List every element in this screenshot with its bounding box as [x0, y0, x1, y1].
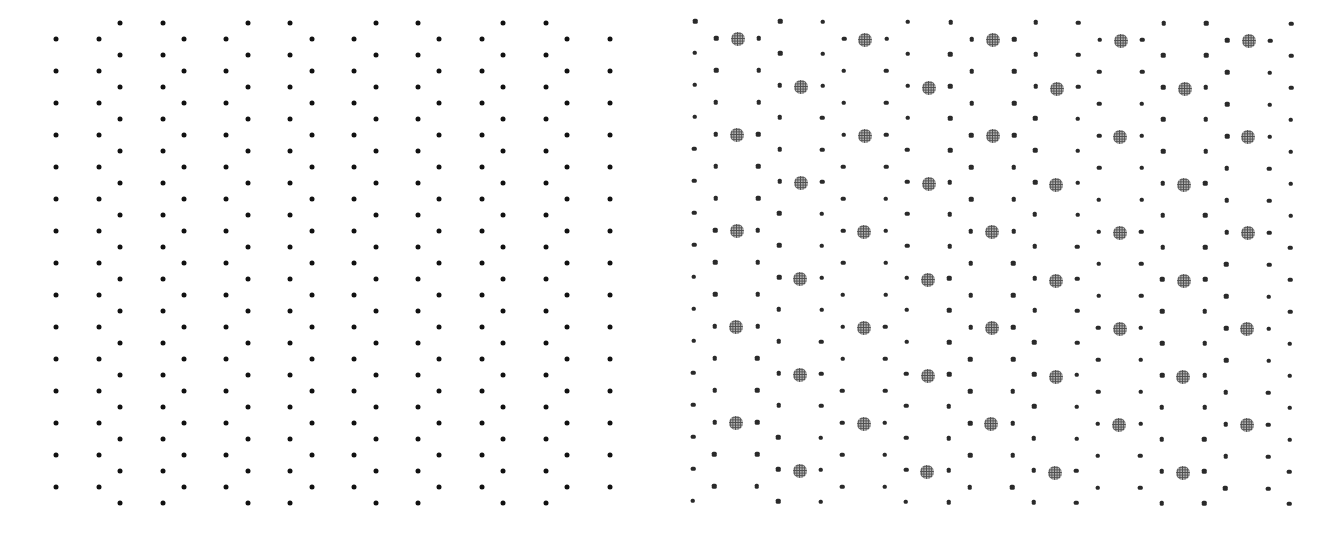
lattice-dot — [1139, 294, 1144, 299]
lattice-dot — [437, 421, 442, 426]
lattice-dot — [245, 341, 250, 346]
lattice-dot — [1288, 181, 1293, 186]
lattice-dot — [1096, 454, 1101, 459]
lattice-dot — [1289, 149, 1294, 154]
lattice-dot — [501, 181, 506, 186]
lattice-dot — [1011, 229, 1016, 234]
lattice-dot — [437, 69, 442, 74]
gray-target-dot — [1178, 82, 1192, 96]
lattice-dot — [224, 229, 229, 234]
lattice-dot — [1160, 341, 1165, 346]
lattice-dot — [373, 149, 378, 154]
gray-target-dot — [857, 321, 871, 335]
lattice-dot — [54, 261, 59, 266]
lattice-dot — [1267, 326, 1272, 331]
lattice-dot — [1138, 454, 1143, 459]
lattice-dot — [1139, 262, 1144, 267]
lattice-dot — [160, 149, 165, 154]
lattice-dot — [947, 404, 952, 409]
lattice-dot — [245, 469, 250, 474]
lattice-dot — [1225, 70, 1230, 75]
lattice-dot — [1203, 245, 1208, 250]
lattice-dot — [480, 357, 485, 362]
lattice-dot — [352, 133, 357, 138]
lattice-dot — [309, 261, 314, 266]
lattice-dot — [352, 261, 357, 266]
lattice-dot — [117, 437, 122, 442]
lattice-dot — [437, 453, 442, 458]
lattice-dot — [352, 325, 357, 330]
lattice-dot — [1160, 405, 1165, 410]
lattice-dot — [373, 245, 378, 250]
lattice-dot — [224, 133, 229, 138]
lattice-dot — [1161, 85, 1166, 90]
lattice-dot — [543, 373, 548, 378]
lattice-dot — [1159, 501, 1164, 506]
lattice-dot — [1204, 85, 1209, 90]
lattice-dot — [352, 357, 357, 362]
gray-target-dot — [985, 321, 999, 335]
gray-target-dot — [1242, 34, 1256, 48]
lattice-dot — [224, 165, 229, 170]
lattice-dot — [543, 85, 548, 90]
lattice-dot — [117, 21, 122, 26]
gray-target-dot — [793, 368, 807, 382]
lattice-dot — [1074, 468, 1079, 473]
lattice-dot — [1289, 53, 1294, 58]
lattice-dot — [969, 69, 974, 74]
right-dot-lattice-panel — [660, 0, 1338, 533]
gray-target-dot — [986, 33, 1000, 47]
lattice-dot — [501, 85, 506, 90]
lattice-dot — [884, 101, 889, 106]
lattice-dot — [607, 485, 612, 490]
lattice-dot — [1012, 133, 1017, 138]
lattice-dot — [501, 245, 506, 250]
lattice-dot — [288, 469, 293, 474]
lattice-dot — [819, 403, 824, 408]
gray-target-dot — [1050, 82, 1064, 96]
lattice-dot — [181, 485, 186, 490]
lattice-dot — [54, 421, 59, 426]
lattice-dot — [756, 196, 761, 201]
lattice-dot — [607, 421, 612, 426]
lattice-dot — [1032, 276, 1037, 281]
lattice-dot — [948, 20, 953, 25]
lattice-dot — [224, 421, 229, 426]
lattice-dot — [96, 165, 101, 170]
lattice-dot — [543, 245, 548, 250]
lattice-dot — [1288, 373, 1293, 378]
lattice-dot — [373, 213, 378, 218]
lattice-dot — [1076, 148, 1081, 153]
lattice-dot — [1097, 102, 1102, 107]
lattice-dot — [713, 164, 718, 169]
lattice-dot — [777, 211, 782, 216]
lattice-dot — [309, 325, 314, 330]
lattice-dot — [1032, 308, 1037, 313]
lattice-dot — [755, 324, 760, 329]
lattice-dot — [352, 421, 357, 426]
lattice-dot — [96, 485, 101, 490]
lattice-dot — [1075, 276, 1080, 281]
lattice-dot — [96, 389, 101, 394]
lattice-dot — [757, 36, 762, 41]
lattice-dot — [1010, 453, 1015, 458]
lattice-dot — [565, 389, 570, 394]
lattice-dot — [777, 307, 782, 312]
lattice-dot — [543, 405, 548, 410]
lattice-dot — [1287, 405, 1292, 410]
lattice-dot — [840, 420, 845, 425]
lattice-dot — [373, 501, 378, 506]
lattice-dot — [1267, 230, 1272, 235]
lattice-dot — [714, 100, 719, 105]
lattice-dot — [841, 292, 846, 297]
lattice-dot — [565, 261, 570, 266]
lattice-dot — [437, 261, 442, 266]
lattice-dot — [691, 403, 696, 408]
lattice-dot — [1031, 500, 1036, 505]
lattice-dot — [1224, 230, 1229, 235]
gray-target-dot — [1049, 370, 1063, 384]
lattice-dot — [883, 453, 888, 458]
lattice-dot — [416, 405, 421, 410]
lattice-dot — [756, 132, 761, 137]
lattice-dot — [905, 148, 910, 153]
